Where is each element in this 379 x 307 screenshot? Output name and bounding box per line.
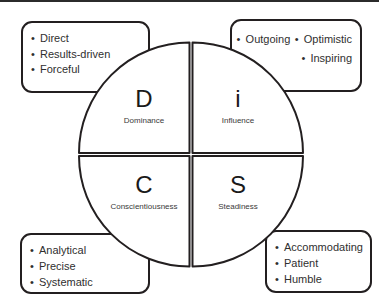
traits-box-steadiness: •Accommodating •Patient •Humble — [265, 230, 372, 293]
trait-item: •Patient — [275, 255, 370, 271]
trait-label: Precise — [39, 260, 76, 272]
quadrant-label-influence: i Influence — [190, 86, 286, 126]
traits-list-steadiness: •Accommodating •Patient •Humble — [275, 239, 370, 287]
trait-item: •Humble — [275, 271, 370, 287]
quadrant-letter: i — [190, 86, 286, 112]
quadrant-name: Influence — [190, 115, 286, 126]
bullet-icon: • — [31, 47, 40, 63]
bullet-icon: • — [275, 239, 284, 255]
bullet-icon: • — [275, 271, 284, 287]
trait-label: Optimistic — [304, 33, 352, 45]
trait-label: Inspiring — [310, 52, 352, 64]
quadrant-letter: D — [96, 86, 192, 112]
trait-item: •Inspiring — [301, 51, 352, 67]
trait-label: Outgoing — [246, 33, 291, 45]
trait-label: Patient — [284, 257, 318, 269]
trait-label: Accommodating — [284, 241, 363, 253]
bullet-icon: • — [31, 62, 40, 78]
quadrant-name: Conscientiousness — [96, 201, 192, 212]
quadrant-label-conscientiousness: C Conscientiousness — [96, 172, 192, 212]
disc-diagram-canvas: •Direct •Results-driven •Forceful •Outgo… — [0, 0, 379, 307]
bullet-icon: • — [275, 255, 284, 271]
quadrant-letter: S — [190, 172, 286, 198]
trait-label: Humble — [284, 273, 322, 285]
trait-item: •Accommodating — [275, 239, 370, 255]
bullet-icon: • — [30, 242, 39, 258]
quadrant-name: Dominance — [96, 115, 192, 126]
quadrant-label-steadiness: S Steadiness — [190, 172, 286, 212]
trait-label: Results-driven — [40, 48, 110, 60]
trait-item: •Direct — [31, 31, 148, 47]
trait-item: •Systematic — [30, 274, 148, 290]
trait-item: •Outgoing — [237, 32, 291, 48]
trait-item: •Precise — [30, 258, 148, 274]
bullet-icon: • — [295, 32, 304, 48]
bullet-icon: • — [30, 258, 39, 274]
quadrant-letter: C — [96, 172, 192, 198]
quadrant-label-dominance: D Dominance — [96, 86, 192, 126]
trait-label: Forceful — [40, 63, 80, 75]
bullet-icon: • — [31, 31, 40, 47]
trait-label: Direct — [40, 32, 69, 44]
trait-label: Systematic — [39, 276, 93, 288]
quadrant-name: Steadiness — [190, 201, 286, 212]
trait-item: •Optimistic — [295, 32, 352, 48]
bullet-icon: • — [30, 274, 39, 290]
trait-label: Analytical — [39, 244, 86, 256]
bullet-icon: • — [237, 32, 246, 48]
